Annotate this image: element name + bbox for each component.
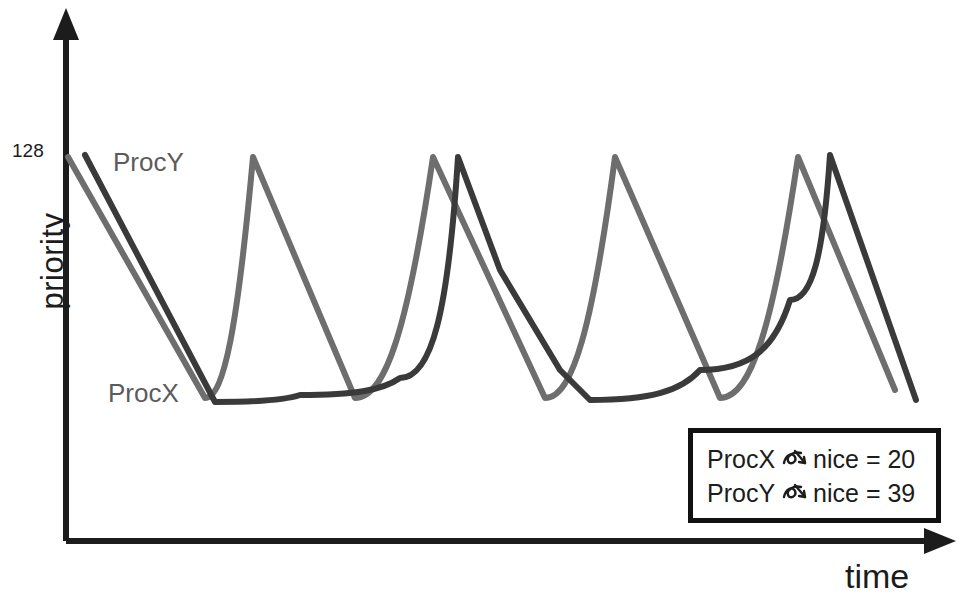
series-label-procx: ProcX [108,378,179,409]
implies-arrow-icon [782,478,808,500]
x-axis-label: time [845,557,909,596]
legend-row: ProcY nice = 39 [707,476,915,510]
x-axis [66,528,956,554]
legend-process-name: ProcX [707,442,775,476]
y-axis-arrowhead-icon [53,8,79,40]
y-axis-tick-label-128: 128 [12,140,44,162]
legend-row: ProcX nice = 20 [707,442,915,476]
legend-process-name: ProcY [707,476,775,510]
legend-relation: nice = 20 [813,442,915,476]
implies-arrow-icon [782,444,808,466]
y-axis-label: priority [35,191,71,331]
legend-box: ProcX nice = 20 ProcY nice = 39 [688,428,941,523]
series-label-procy: ProcY [113,147,184,178]
legend-relation: nice = 39 [813,476,915,510]
priority-vs-time-figure: priority time 128 ProcY ProcX ProcX nice… [0,0,975,609]
x-axis-arrowhead-icon [924,528,956,554]
